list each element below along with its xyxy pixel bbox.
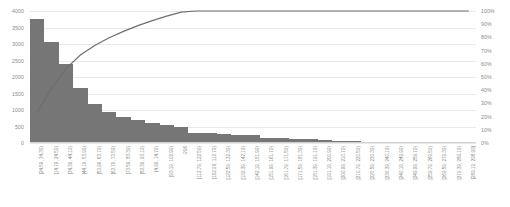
bar-slot [102,11,116,143]
x-axis-label: [249.99, 259.79) [411,146,416,179]
x-axis-label-slot: [34.39, 44.19) [59,146,73,204]
bar-slot [59,11,73,143]
x-axis-label: [289.19, 298.99] [469,146,474,179]
x-axis-label: [240.19, 249.99) [397,146,402,179]
y-axis-right-tick: 40% [481,87,492,93]
bar [145,123,159,143]
bar-slot [73,11,87,143]
x-axis-label: [53.99, 63.79) [95,146,100,174]
x-axis-label-slot: [161.79, 171.59) [275,146,289,204]
x-axis-label: [93.19, 102.99) [167,146,172,177]
bar [116,117,130,143]
y-axis-right-tick: 30% [481,100,492,106]
x-axis-label-slot: [269.59, 279.39) [433,146,447,204]
x-axis-label-slot: [200.99, 210.79) [332,146,346,204]
x-axis-label-slot: [53.99, 63.79) [88,146,102,204]
bar-slot [289,11,303,143]
y-axis-right-tick: 60% [481,61,492,67]
bar [174,127,188,143]
bar-slot [246,11,260,143]
bar [44,42,58,143]
bar-slot [347,11,361,143]
x-axis-label: [230.39, 240.19) [383,146,388,179]
bar-slot [447,11,461,143]
y-axis-right-tick: 0% [481,140,489,146]
x-axis-label: [279.39, 289.19) [455,146,460,179]
y-axis-left-tick: 3000 [12,41,24,47]
x-axis-label-slot: [151.99, 161.79) [260,146,274,204]
x-axis-label-slot: [24.59, 34.39) [30,146,44,204]
x-axis-line [30,142,476,143]
y-axis-left-tick: 3500 [12,25,24,31]
x-axis-label-slot: [249.99, 259.79) [404,146,418,204]
bar-slot [231,11,245,143]
x-axis-label-slot: [279.39, 289.19) [447,146,461,204]
x-axis-label-slot: [63.79, 73.59) [102,146,116,204]
bar-slot [433,11,447,143]
bar-slot [404,11,418,143]
x-axis-label: [132.39, 142.19) [239,146,244,179]
x-axis-label-slot: [142.19, 151.99) [246,146,260,204]
y-axis-right: 0%10%20%30%40%50%60%70%80%90%100% [478,11,510,143]
x-axis-label: [191.19, 200.99) [325,146,330,179]
x-axis-label: -296 [181,146,186,155]
bar [73,88,87,143]
x-axis-label-slot: [210.79, 220.59) [347,146,361,204]
x-axis-label-slot: [112.79, 122.59) [188,146,202,204]
x-axis-label-slot: [93.19, 102.99) [160,146,174,204]
bar-slot [260,11,274,143]
bar-slot [303,11,317,143]
bar-slot [375,11,389,143]
x-axis-label-slot: [4.99, 14.79) [145,146,159,204]
x-axis-label: [34.39, 44.19) [66,146,71,174]
pareto-chart: 05001000150020002500300035004000 0%10%20… [0,0,510,207]
y-axis-right-tick: 20% [481,114,492,120]
y-axis-left-tick: 0 [21,140,24,146]
x-axis-label-slot: [73.59, 83.39) [116,146,130,204]
bar-slot [188,11,202,143]
x-axis-label: [112.79, 122.59) [195,146,200,179]
x-axis-label: [161.79, 171.59) [282,146,287,179]
x-axis-label: [210.79, 220.59) [354,146,359,179]
x-axis-label-slot: [289.19, 298.99] [462,146,476,204]
y-axis-left-tick: 1500 [12,91,24,97]
y-axis-right-tick: 100% [481,8,495,14]
y-axis-left-tick: 2500 [12,58,24,64]
x-axis-label: [151.99, 161.79) [267,146,272,179]
x-axis-label-slot: [240.19, 249.99) [390,146,404,204]
x-axis-label: [171.59, 181.39) [296,146,301,179]
x-axis-label: [259.79, 269.59) [426,146,431,179]
bar-slot [318,11,332,143]
x-axis-label-slot: [44.19, 53.99) [73,146,87,204]
bar [59,64,73,143]
x-axis-label: [83.39, 93.19) [138,146,143,174]
x-axis-label: [14.79, 24.59) [52,146,57,174]
x-axis-labels: [24.59, 34.39)[14.79, 24.59)[34.39, 44.1… [30,146,476,204]
bar-slot [131,11,145,143]
x-axis-label-slot: [171.59, 181.39) [289,146,303,204]
bar-slot [203,11,217,143]
x-axis-label: [24.59, 34.39) [37,146,42,174]
y-axis-left-tick: 500 [15,124,24,130]
y-axis-left-tick: 4000 [12,8,24,14]
x-axis-label-slot: [230.39, 240.19) [375,146,389,204]
bar-slot [462,11,476,143]
x-axis-label-slot: [181.39, 191.19) [303,146,317,204]
bar [30,19,44,143]
bar-slot [390,11,404,143]
x-axis-label: [200.99, 210.79) [339,146,344,179]
x-axis-label: [44.19, 53.99) [80,146,85,174]
x-axis-label: [181.39, 191.19) [311,146,316,179]
bar [160,125,174,143]
x-axis-label: [220.59, 230.39) [368,146,373,179]
bar-slot [332,11,346,143]
bar-slot [361,11,375,143]
y-axis-right-tick: 70% [481,48,492,54]
y-axis-right-tick: 80% [481,34,492,40]
x-axis-label-slot: [102.99, 112.79) [203,146,217,204]
x-axis-label: [4.99, 14.79) [152,146,157,172]
bar [102,112,116,143]
x-axis-label: [269.59, 279.39) [440,146,445,179]
x-axis-label: [102.99, 112.79) [210,146,215,179]
bar-slot [419,11,433,143]
